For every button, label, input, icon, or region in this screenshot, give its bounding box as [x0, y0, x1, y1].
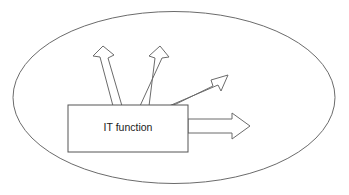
arrow-diagonal-up-right	[169, 75, 228, 106]
arrow-up-left	[93, 46, 122, 106]
diagram-canvas: IT function	[0, 0, 349, 195]
arrow-right	[188, 113, 250, 139]
arrow-up-right	[140, 46, 169, 106]
enclosing-ellipse	[13, 12, 335, 184]
it-function-label: IT function	[104, 121, 153, 133]
diagram-svg: IT function	[0, 0, 349, 195]
